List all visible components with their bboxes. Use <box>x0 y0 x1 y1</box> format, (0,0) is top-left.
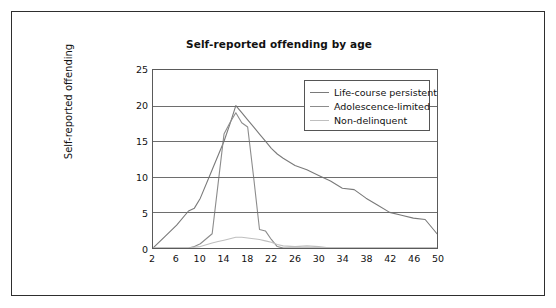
x-tick-50: 50 <box>432 253 444 264</box>
y-tick-10: 10 <box>122 172 148 183</box>
legend-swatch-icon <box>310 120 329 121</box>
series-line <box>153 113 437 248</box>
legend-label: Non-delinquent <box>334 115 407 126</box>
legend-swatch-icon <box>310 92 329 93</box>
chart-legend: Life-course persistent Adolescence-limit… <box>304 80 430 131</box>
x-tick-34: 34 <box>337 253 349 264</box>
y-tick-20: 20 <box>122 100 148 111</box>
x-tick-26: 26 <box>289 253 301 264</box>
gridline-10 <box>153 177 437 178</box>
x-tick-42: 42 <box>384 253 396 264</box>
chart-title: Self-reported offending by age <box>12 38 546 50</box>
y-axis-tick-labels: 25 20 15 10 5 0 <box>120 69 148 249</box>
y-tick-5: 5 <box>122 208 148 219</box>
legend-item-life-course-persistent: Life-course persistent <box>310 85 424 99</box>
x-axis-tick-labels: 261014182226303438424650 <box>152 253 438 269</box>
legend-item-non-delinquent: Non-delinquent <box>310 113 424 127</box>
x-tick-2: 2 <box>149 253 155 264</box>
legend-swatch-icon <box>310 106 329 107</box>
x-tick-30: 30 <box>313 253 325 264</box>
gridline-5 <box>153 212 437 213</box>
y-tick-25: 25 <box>122 64 148 75</box>
y-tick-15: 15 <box>122 136 148 147</box>
legend-label: Adolescence-limited <box>334 101 430 112</box>
x-tick-46: 46 <box>408 253 420 264</box>
x-tick-6: 6 <box>173 253 179 264</box>
x-tick-38: 38 <box>360 253 372 264</box>
legend-item-adolescence-limited: Adolescence-limited <box>310 99 424 113</box>
x-tick-14: 14 <box>217 253 229 264</box>
x-tick-10: 10 <box>194 253 206 264</box>
x-tick-18: 18 <box>241 253 253 264</box>
y-tick-0: 0 <box>122 244 148 255</box>
legend-label: Life-course persistent <box>334 87 437 98</box>
y-axis-label: Self-reported offending <box>63 32 74 172</box>
figure-frame: Self-reported offending by age Self-repo… <box>11 11 545 296</box>
gridline-15 <box>153 141 437 142</box>
x-tick-22: 22 <box>265 253 277 264</box>
